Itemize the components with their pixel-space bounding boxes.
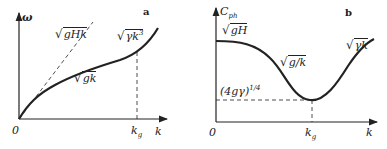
panel-a-letter: a (143, 7, 149, 17)
panel-b-kg-label: kg (305, 127, 316, 141)
panel-b-label-sqrt-gamma-k: √γk (346, 39, 368, 51)
panel-a-kg-label: kg (131, 125, 142, 139)
panel-a-label-sqrt-gamma-k3: √γk3 (117, 30, 143, 42)
panel-a-label-sqrt-gk: √gk (74, 72, 96, 84)
panel-a-origin-label: 0 (12, 125, 19, 136)
panel-a-label-sqrt-gHk: √gHk (55, 28, 87, 40)
panel-b-label-sqrt-g-over-k: √g/k (280, 56, 306, 68)
panel-b-label-sqrt-gH: √gH (222, 24, 247, 36)
panel-b-origin-label: 0 (209, 127, 216, 138)
panel-a-x-axis-label: k (155, 126, 162, 137)
panel-a-y-axis-label: ω (22, 12, 32, 23)
diagram-canvas (0, 0, 387, 149)
panel-b-x-axis-label: k (366, 127, 373, 138)
panel-b-letter: b (345, 8, 352, 18)
panel-b-y-axis-label: Cph (220, 6, 237, 20)
panel-a-axes (19, 13, 167, 119)
panel-b-label-min-velocity: (4gγ)1/4 (220, 85, 260, 97)
